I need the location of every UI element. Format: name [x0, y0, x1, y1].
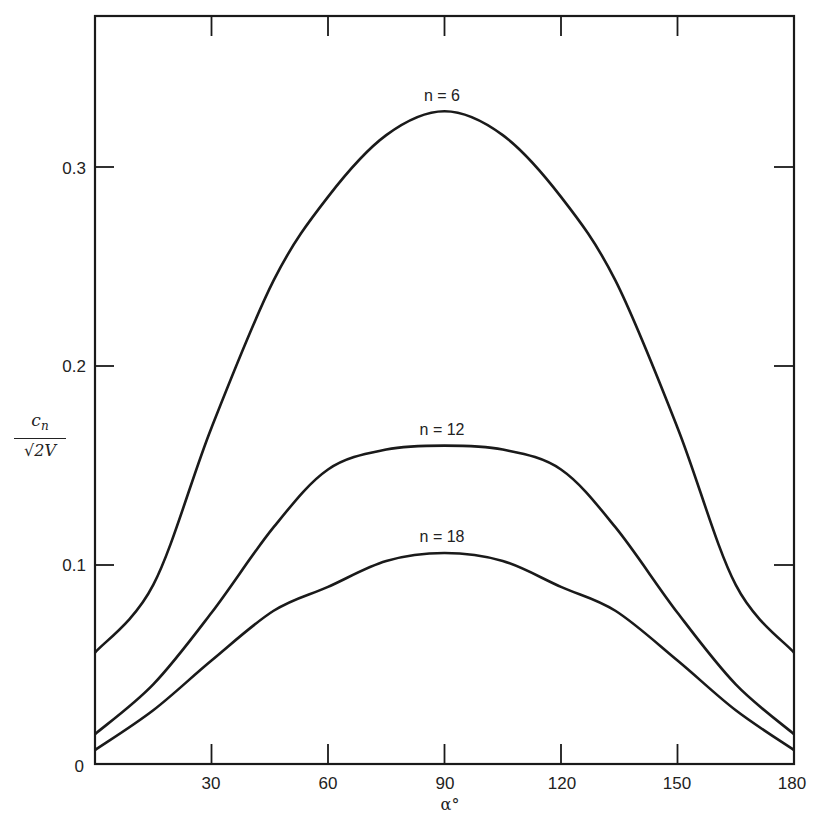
y-axis-label-denominator: √2V: [14, 441, 66, 461]
x-tick-label-180: 180: [778, 774, 806, 793]
curve-n12: [95, 446, 794, 735]
chart-plot: 0 0.1 0.2 0.3 30 60 90 120 150 180 n = 6…: [0, 0, 819, 825]
y-tick-label-0.2: 0.2: [62, 357, 86, 376]
axis-ticks: [95, 16, 794, 764]
y-axis-label-sub: n: [41, 419, 49, 433]
curve-n18: [95, 553, 794, 750]
y-axis-label-numerator: cn: [14, 410, 66, 436]
y-axis-label-c: c: [31, 410, 41, 430]
x-tick-label-90: 90: [436, 774, 455, 793]
x-tick-label-120: 120: [548, 774, 576, 793]
x-tick-label-150: 150: [663, 774, 691, 793]
x-axis-label: α°: [430, 795, 470, 814]
fraction-bar: [14, 438, 66, 439]
curve-label-n12: n = 12: [420, 421, 465, 438]
curve-label-n6: n = 6: [424, 87, 460, 104]
y-tick-label-0: 0: [75, 757, 84, 776]
y-axis-label: cn √2V: [14, 410, 66, 461]
curve-n6: [95, 111, 794, 652]
x-tick-label-30: 30: [202, 774, 221, 793]
curve-label-n18: n = 18: [420, 528, 465, 545]
plot-frame: [95, 16, 794, 764]
x-tick-label-60: 60: [319, 774, 338, 793]
y-tick-label-0.3: 0.3: [62, 159, 86, 178]
y-tick-label-0.1: 0.1: [62, 556, 86, 575]
